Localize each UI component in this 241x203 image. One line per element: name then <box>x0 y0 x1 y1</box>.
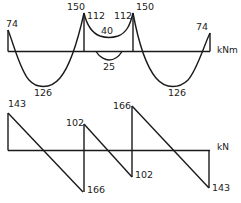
moment-label-span2-sag: 25 <box>103 61 115 72</box>
moment-label-support-c-face: 112 <box>114 10 132 21</box>
shear-label-right-end: 143 <box>212 182 230 193</box>
shear-unit-label: kN <box>217 142 229 152</box>
beam-diagrams: 74 126 150 112 40 25 112 150 126 74 kNm … <box>0 0 241 203</box>
moment-span2-sag-curve <box>96 52 122 61</box>
moment-label-right-end: 74 <box>196 21 208 32</box>
shear-label-support-c-left: 102 <box>135 169 153 180</box>
shear-force-diagram: 143 166 102 102 166 143 kN <box>8 98 230 195</box>
shear-label-support-c-right: 166 <box>113 100 131 111</box>
moment-span1-curve <box>8 13 84 87</box>
shear-label-left-end: 143 <box>8 98 26 109</box>
moment-label-support-b-face: 112 <box>87 10 105 21</box>
moment-label-support-c-peak: 150 <box>136 1 154 12</box>
moment-label-span2-hog: 40 <box>101 25 113 36</box>
moment-unit-label: kNm <box>217 45 238 55</box>
moment-label-support-b-peak: 150 <box>67 1 85 12</box>
moment-label-span3-sag: 126 <box>168 87 186 98</box>
shear-label-support-b-left: 166 <box>87 184 105 195</box>
moment-label-span1-sag: 126 <box>34 87 52 98</box>
shear-label-support-b-right: 102 <box>66 117 84 128</box>
bending-moment-diagram: 74 126 150 112 40 25 112 150 126 74 kNm <box>6 1 238 98</box>
moment-label-left-end: 74 <box>6 18 18 29</box>
